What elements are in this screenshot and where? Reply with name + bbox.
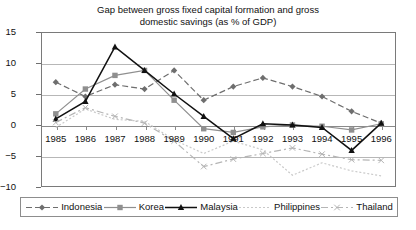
x-axis-tick-label: 1996 (364, 134, 398, 144)
legend-item-korea[interactable]: Korea (103, 202, 164, 213)
y-axis-tick-mark (36, 156, 41, 157)
data-point-marker (83, 86, 88, 91)
y-axis-tick-mark (36, 187, 41, 188)
legend-label: Thailand (356, 202, 392, 212)
legend-item-indonesia[interactable]: Indonesia (25, 202, 102, 213)
y-axis-tick-label: −10 (0, 182, 16, 192)
data-point-marker (112, 73, 117, 78)
line-square-swatch (103, 202, 137, 213)
legend-label: Philippines (274, 202, 320, 212)
chart-screenshot: Gap between gross fixed capital formatio… (0, 0, 416, 230)
line-triangle-swatch (164, 202, 198, 213)
data-point-marker (260, 75, 266, 81)
data-point-marker (201, 97, 207, 103)
data-point-marker (201, 126, 206, 131)
legend-item-malaysia[interactable]: Malaysia (164, 202, 238, 213)
y-axis-tick-label: 0 (0, 120, 16, 130)
y-axis-tick-mark (36, 63, 41, 64)
chart-legend: IndonesiaKoreaMalaysiaPhilippinesThailan… (20, 197, 398, 217)
line-dotted-swatch (238, 202, 272, 213)
data-point-marker (349, 127, 354, 132)
data-point-marker (141, 86, 147, 92)
data-point-marker (349, 108, 355, 114)
series-korea (53, 68, 384, 135)
data-point-marker (319, 93, 325, 99)
series-layer (41, 32, 396, 187)
y-axis-tick-label: 5 (0, 89, 16, 99)
legend-label: Malaysia (200, 202, 238, 212)
y-axis-tick-label: 10 (0, 58, 16, 68)
y-axis-tick-mark (36, 125, 41, 126)
data-point-marker (53, 79, 59, 85)
data-point-marker (289, 83, 295, 89)
y-axis-tick-label: −5 (0, 151, 16, 161)
legend-label: Indonesia (61, 202, 102, 212)
y-axis-tick-label: 15 (0, 27, 16, 37)
data-point-marker (171, 98, 176, 103)
data-point-marker (112, 43, 118, 49)
line-dashx-swatch (320, 202, 354, 213)
data-point-marker (82, 98, 88, 104)
series-indonesia (53, 67, 385, 126)
line-diamond-swatch (25, 202, 59, 213)
title-line-2: domestic savings (as % of GDP) (0, 16, 416, 28)
data-point-marker (112, 82, 118, 88)
data-point-marker (230, 83, 236, 89)
legend-item-philippines[interactable]: Philippines (238, 202, 320, 213)
y-axis-tick-mark (36, 94, 41, 95)
title-line-1: Gap between gross fixed capital formatio… (0, 4, 416, 16)
data-point-marker (171, 67, 177, 73)
series-line (56, 70, 381, 123)
y-axis-tick-mark (36, 32, 41, 33)
legend-label: Korea (139, 202, 164, 212)
page-title: Gap between gross fixed capital formatio… (0, 4, 416, 28)
legend-item-thailand[interactable]: Thailand (320, 202, 392, 213)
